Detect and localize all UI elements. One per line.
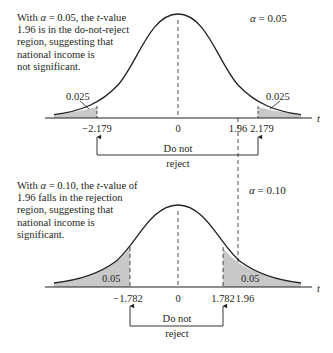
- bottom-alpha-value: = 0.10: [255, 184, 286, 196]
- bottom-annotation-rest: 1.96 falls in the rejection region, sugg…: [17, 192, 123, 240]
- top-left-tail-shade: [54, 107, 97, 118]
- bottom-annotation-l1b: = 0.10, the: [46, 180, 97, 191]
- top-alpha-value: = 0.05: [256, 12, 287, 24]
- bottom-alpha-label: α = 0.10: [249, 184, 286, 196]
- bottom-tick-center: 0: [175, 293, 180, 304]
- bottom-axis-label: t: [317, 283, 321, 294]
- top-axis-label: t: [317, 113, 321, 124]
- top-area-label-right: 0.025: [266, 91, 290, 102]
- bottom-annotation-l1a: With: [17, 180, 40, 191]
- bottom-area-label-right: 0.05: [241, 273, 259, 284]
- top-bracket-label-1: Do not: [164, 143, 193, 154]
- top-tick-right-crit: 2.179: [250, 123, 274, 134]
- top-area-label-left: 0.025: [66, 91, 90, 102]
- top-right-area-pointer: [270, 101, 280, 109]
- bottom-tick-t-value: 1.96: [236, 293, 254, 304]
- top-annotation-l1a: With: [17, 12, 40, 23]
- top-annotation-rest: 1.96 is in the do-not-reject region, sug…: [17, 24, 129, 72]
- top-alpha-label: α = 0.05: [250, 12, 287, 24]
- top-right-tail-shade: [258, 107, 301, 118]
- bottom-bracket-label-1: Do not: [163, 313, 192, 324]
- bottom-tick-right-crit: 1.782: [211, 293, 235, 304]
- top-tick-t-value: 1.96: [229, 123, 247, 134]
- top-annotation-l1b: = 0.05, the: [46, 12, 97, 23]
- bottom-tick-left-crit: −1.782: [113, 293, 143, 304]
- bottom-annotation-l1c: -value of: [100, 180, 138, 191]
- top-annotation: With α = 0.05, the t-value 1.96 is in th…: [17, 12, 129, 73]
- bottom-area-label-left: 0.05: [102, 273, 120, 284]
- top-tick-left-crit: −2.179: [82, 123, 112, 134]
- top-tick-center: 0: [175, 123, 180, 134]
- top-annotation-l1c: -value: [100, 12, 126, 23]
- bottom-annotation: With α = 0.10, the t-value of 1.96 falls…: [17, 180, 138, 241]
- top-bracket-label-2: reject: [166, 158, 189, 169]
- bottom-bracket-label-2: reject: [165, 328, 188, 339]
